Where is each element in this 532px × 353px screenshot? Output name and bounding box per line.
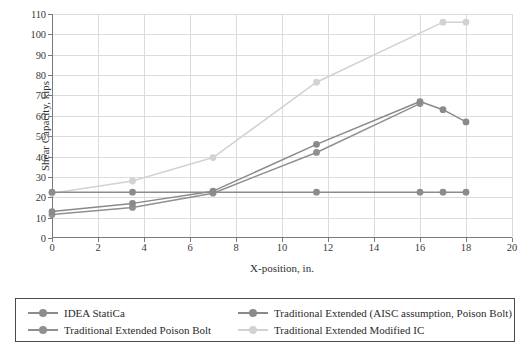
x-tick-label: 8 bbox=[233, 242, 238, 253]
legend-item-0[interactable]: IDEA StatiCa bbox=[28, 304, 125, 321]
series-data-point bbox=[440, 189, 447, 196]
series-data-point bbox=[463, 19, 470, 26]
y-tick-label: 80 bbox=[36, 70, 46, 81]
series-data-point bbox=[129, 200, 136, 207]
legend-item-1[interactable]: Traditional Extended (AISC assumption, P… bbox=[238, 304, 512, 321]
chart-root: Shear Capacity, kips 0102030405060708090… bbox=[0, 0, 532, 353]
series-data-point bbox=[440, 19, 447, 26]
legend-dot-2 bbox=[39, 326, 47, 334]
legend-label-2: Traditional Extended Poison Bolt bbox=[64, 324, 211, 336]
series-data-point bbox=[463, 119, 470, 126]
x-tick-label: 2 bbox=[95, 242, 100, 253]
legend-item-3[interactable]: Traditional Extended Modified IC bbox=[238, 321, 424, 338]
x-tick-label: 20 bbox=[507, 242, 518, 253]
y-tick-label: 10 bbox=[36, 212, 46, 223]
y-tick-label: 50 bbox=[36, 131, 46, 142]
y-tick-label: 60 bbox=[36, 110, 46, 121]
legend-dot-1 bbox=[249, 309, 257, 317]
x-tick-label: 6 bbox=[187, 242, 192, 253]
series-data-point bbox=[417, 189, 424, 196]
y-axis-title-wrap: Shear Capacity, kips bbox=[2, 14, 22, 238]
legend-label-0: IDEA StatiCa bbox=[64, 307, 125, 319]
x-tick-label: 4 bbox=[141, 242, 146, 253]
plot-area: 0102030405060708090100110 02468101214161… bbox=[52, 14, 512, 238]
series-data-point bbox=[129, 189, 136, 196]
series-data-point bbox=[417, 98, 424, 105]
y-tick-label: 110 bbox=[31, 9, 46, 20]
legend-marker-icon-2 bbox=[28, 324, 58, 336]
series-data-point bbox=[313, 149, 320, 156]
legend-marker-icon-1 bbox=[238, 307, 268, 319]
legend-label-3: Traditional Extended Modified IC bbox=[274, 324, 424, 336]
x-tick-label: 14 bbox=[369, 242, 380, 253]
x-tick-label: 12 bbox=[323, 242, 334, 253]
x-tick-label: 16 bbox=[415, 242, 426, 253]
series-data-point bbox=[313, 189, 320, 196]
series-data-point bbox=[49, 189, 56, 196]
legend-dot-3 bbox=[249, 326, 257, 334]
legend-marker-icon-0 bbox=[28, 307, 58, 319]
series-data-point bbox=[210, 188, 217, 195]
y-tick-label: 100 bbox=[31, 29, 46, 40]
series-layer bbox=[52, 14, 512, 238]
y-tick-label: 0 bbox=[41, 233, 46, 244]
x-tick-label: 18 bbox=[461, 242, 472, 253]
legend-item-2[interactable]: Traditional Extended Poison Bolt bbox=[28, 321, 211, 338]
x-tick-label: 0 bbox=[49, 242, 54, 253]
series-data-point bbox=[210, 154, 217, 161]
series-data-point bbox=[313, 141, 320, 148]
series-data-point bbox=[313, 79, 320, 86]
y-tick-label: 70 bbox=[36, 90, 46, 101]
legend-label-1: Traditional Extended (AISC assumption, P… bbox=[274, 307, 512, 319]
y-tick-label: 30 bbox=[36, 171, 46, 182]
x-axis-title: X-position, in. bbox=[52, 262, 512, 274]
series-data-point bbox=[463, 189, 470, 196]
series-data-point bbox=[129, 178, 136, 185]
legend-marker-icon-3 bbox=[238, 324, 268, 336]
y-tick-label: 90 bbox=[36, 49, 46, 60]
y-tick-label: 20 bbox=[36, 192, 46, 203]
series-line bbox=[52, 104, 420, 215]
legend-dot-0 bbox=[39, 309, 47, 317]
gridline-vertical bbox=[512, 14, 513, 238]
chart-legend: IDEA StatiCa Traditional Extended Poison… bbox=[15, 298, 515, 342]
series-data-point bbox=[440, 106, 447, 113]
series-data-point bbox=[49, 208, 56, 215]
y-tick-label: 40 bbox=[36, 151, 46, 162]
x-tick-label: 10 bbox=[277, 242, 288, 253]
series-line bbox=[52, 102, 466, 212]
